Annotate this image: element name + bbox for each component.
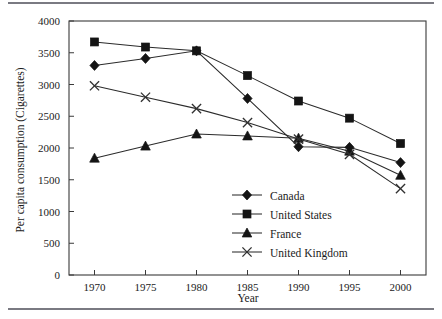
legend-item-united-kingdom: United Kingdom bbox=[232, 247, 348, 260]
data-point-marker bbox=[396, 170, 406, 179]
data-point-marker bbox=[141, 93, 150, 102]
data-point-marker bbox=[295, 97, 303, 105]
legend-label: France bbox=[270, 228, 301, 240]
y-tick-label: 4000 bbox=[38, 15, 61, 27]
legend-marker-diamond bbox=[242, 190, 251, 200]
x-axis-tick-marks bbox=[95, 270, 401, 275]
data-point-marker bbox=[90, 60, 99, 70]
series-france bbox=[90, 129, 406, 179]
x-tick-label: 1975 bbox=[135, 281, 158, 293]
data-point-marker bbox=[141, 53, 150, 63]
y-tick-label: 1000 bbox=[38, 206, 61, 218]
data-point-marker bbox=[142, 43, 150, 51]
legend-label: Canada bbox=[270, 190, 304, 202]
x-tick-label: 1990 bbox=[288, 281, 311, 293]
data-point-marker bbox=[396, 158, 405, 168]
y-axis-tick-labels: 05001000150020002500300035004000 bbox=[38, 15, 61, 281]
x-tick-label: 2000 bbox=[390, 281, 413, 293]
x-tick-label: 1970 bbox=[84, 281, 107, 293]
data-point-marker bbox=[397, 140, 405, 148]
y-tick-label: 3000 bbox=[38, 79, 61, 91]
legend-label: United Kingdom bbox=[270, 247, 348, 260]
legend-item-united-states: United States bbox=[232, 209, 332, 221]
chart-legend: CanadaUnited StatesFranceUnited Kingdom bbox=[232, 190, 348, 260]
data-point-marker bbox=[91, 38, 99, 46]
series-line bbox=[95, 51, 401, 163]
series-line bbox=[95, 42, 401, 144]
data-point-marker bbox=[192, 129, 202, 138]
figure-container: 05001000150020002500300035004000 1970197… bbox=[0, 0, 442, 319]
data-point-marker bbox=[346, 114, 354, 122]
data-series-group bbox=[90, 38, 406, 193]
line-chart: 05001000150020002500300035004000 1970197… bbox=[0, 0, 442, 319]
data-point-marker bbox=[396, 184, 405, 193]
y-tick-label: 2500 bbox=[38, 110, 61, 122]
y-tick-label: 1500 bbox=[38, 174, 61, 186]
y-tick-label: 3500 bbox=[38, 47, 61, 59]
y-axis-title: Per capita consumption (Cigarettes) bbox=[14, 67, 27, 232]
x-tick-label: 1995 bbox=[339, 281, 362, 293]
legend-item-canada: Canada bbox=[232, 190, 304, 202]
y-tick-label: 2000 bbox=[38, 142, 61, 154]
y-tick-label: 0 bbox=[55, 269, 61, 281]
x-tick-label: 1980 bbox=[186, 281, 209, 293]
y-axis-tick-marks bbox=[69, 21, 74, 275]
data-point-marker bbox=[193, 47, 201, 55]
data-point-marker bbox=[192, 104, 201, 113]
data-point-marker bbox=[244, 72, 252, 80]
legend-item-france: France bbox=[232, 228, 301, 240]
legend-label: United States bbox=[270, 209, 332, 221]
legend-marker-square bbox=[243, 210, 251, 218]
series-canada bbox=[90, 46, 405, 168]
data-point-marker bbox=[243, 118, 252, 127]
data-point-marker bbox=[90, 81, 99, 90]
x-axis-title: Year bbox=[237, 292, 258, 304]
y-tick-label: 500 bbox=[44, 237, 61, 249]
